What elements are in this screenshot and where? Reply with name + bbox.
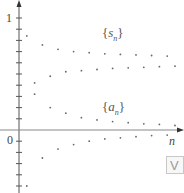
data-point: [96, 69, 98, 71]
x-axis-label: n: [169, 135, 175, 147]
data-point: [65, 71, 67, 73]
data-point: [49, 75, 51, 77]
data-point: [26, 35, 28, 37]
data-point: [73, 51, 75, 53]
data-point: [34, 82, 36, 84]
series-label-s-n: {sn}: [102, 26, 124, 43]
data-point: [143, 66, 145, 68]
y-axis-arrow-icon: [17, 0, 22, 7]
brace-close: }: [117, 25, 123, 40]
data-points: [26, 35, 176, 187]
x-axis-arrow-icon: [177, 128, 184, 133]
data-point: [88, 52, 90, 54]
y-tick-label-one: 1: [6, 12, 12, 24]
data-point: [166, 134, 168, 136]
data-point: [166, 55, 168, 57]
y-tick-label-zero: 0: [7, 134, 13, 146]
data-point: [34, 93, 36, 95]
series-label-a-n: {an}: [102, 100, 125, 117]
data-point: [174, 65, 176, 67]
data-point: [174, 125, 176, 127]
corner-button[interactable]: V: [166, 156, 184, 174]
data-point: [159, 124, 161, 126]
data-point: [88, 140, 90, 142]
data-point: [120, 54, 122, 56]
data-point: [42, 44, 44, 46]
data-point: [104, 53, 106, 55]
data-point: [120, 137, 122, 139]
sequence-plot: [0, 0, 184, 193]
data-point: [143, 123, 145, 125]
data-point: [96, 119, 98, 121]
data-point: [112, 121, 114, 123]
data-point: [112, 68, 114, 70]
data-point: [159, 66, 161, 68]
data-point: [81, 117, 83, 119]
data-point: [65, 112, 67, 114]
data-point: [49, 107, 51, 109]
data-point: [81, 70, 83, 72]
brace-close: }: [119, 99, 125, 114]
data-point: [42, 157, 44, 159]
data-point: [151, 55, 153, 57]
data-point: [73, 144, 75, 146]
data-point: [104, 138, 106, 140]
data-point: [57, 148, 59, 150]
data-point: [151, 135, 153, 137]
data-point: [57, 48, 59, 50]
data-point: [26, 185, 28, 187]
axes: [0, 0, 184, 193]
data-point: [127, 67, 129, 69]
data-point: [135, 54, 137, 56]
data-point: [135, 136, 137, 138]
data-point: [127, 122, 129, 124]
